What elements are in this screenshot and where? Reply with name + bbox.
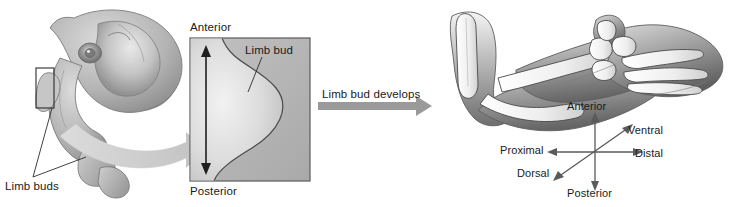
- embryo-pupil: [85, 49, 95, 58]
- limb-buds-label: Limb buds: [5, 180, 59, 193]
- limb-bud-closeup-panel: [190, 38, 310, 181]
- compass-distal-label: Distal: [635, 147, 663, 160]
- embryo-tail: [98, 167, 129, 198]
- embryo-illustration: [33, 10, 182, 198]
- limb-development-figure: Limb buds Anterior Posterior Limb bud Li…: [0, 0, 732, 207]
- carpal-bone-3: [592, 60, 616, 80]
- carpal-bone-1: [589, 38, 612, 60]
- compass-ventral-label: Ventral: [628, 124, 663, 137]
- compass-posterior-label: Posterior: [567, 187, 612, 200]
- closeup-posterior-label: Posterior: [190, 185, 237, 198]
- digit-ray-2: [624, 68, 708, 82]
- diagram-graphics: [0, 0, 732, 207]
- closeup-limb-bud-label: Limb bud: [245, 44, 293, 57]
- embryo-eye-highlight: [87, 50, 90, 53]
- compass-dorsal-label: Dorsal: [517, 167, 549, 180]
- limb-bud-develops-label: Limb bud develops: [322, 88, 420, 101]
- digit-ray-4: [597, 20, 616, 40]
- carpal-bone-2: [612, 36, 636, 56]
- compass-anterior-label: Anterior: [567, 100, 606, 113]
- closeup-anterior-label: Anterior: [190, 21, 231, 34]
- limb-buds-leader-line-1: [33, 108, 52, 177]
- compass-proximal-label: Proximal: [500, 144, 544, 157]
